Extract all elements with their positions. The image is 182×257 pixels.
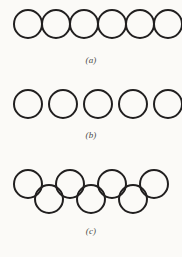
figure-panel-b: (b) [0,80,182,160]
circle-c-r0-1 [56,170,84,198]
panel-b-artwork [0,86,182,126]
circle-c-r0-3 [140,170,168,198]
circle-b-r0-0 [14,90,42,118]
figure-panel-a: (a) [0,0,182,80]
circle-b-r0-1 [49,90,77,118]
circle-b-r0-4 [154,90,182,118]
panel-a-artwork [0,6,182,46]
circle-b-r0-2 [84,90,112,118]
circle-c-r0-2 [98,170,126,198]
figure-panel-c: (c) [0,160,182,257]
panel-a-ring-group [14,10,182,38]
circle-a-r0-0 [14,10,42,38]
circle-a-r0-2 [70,10,98,38]
circle-c-r1-0 [35,185,63,213]
panel-a-circles-svg [0,6,182,46]
circle-a-r0-1 [42,10,70,38]
circle-a-r0-4 [126,10,154,38]
panel-b-label: (b) [0,130,182,141]
circle-c-r0-0 [14,170,42,198]
circle-a-r0-5 [154,10,182,38]
panel-c-artwork [0,166,182,222]
panel-b-circles-svg [0,86,182,126]
circle-c-r1-1 [77,185,105,213]
panel-b-ring-group [14,90,182,118]
panel-c-circles-svg [0,166,182,222]
circle-b-r0-3 [119,90,147,118]
panel-c-ring-group [14,170,168,213]
circle-c-r1-2 [119,185,147,213]
panel-a-label: (a) [0,55,182,66]
circle-a-r0-3 [98,10,126,38]
figure-root: (a) (b) (c) [0,0,182,257]
panel-c-label: (c) [0,226,182,237]
